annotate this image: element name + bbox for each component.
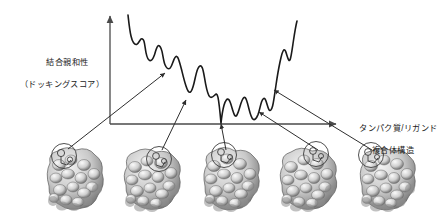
y-axis-label: 結合親和性 （ドッキングスコア） <box>14 46 110 112</box>
pointer-structure-4 <box>259 112 318 150</box>
docking-landscape-figure: 結合親和性 （ドッキングスコア） タンパク質/リガンド 複合体構造 <box>0 0 441 218</box>
x-axis-label-line1: タンパク質/リガンド <box>359 124 437 133</box>
pointer-structure-3 <box>221 124 226 150</box>
y-axis-label-line1: 結合親和性 <box>46 58 88 67</box>
y-axis-label-line2: （ドッキングスコア） <box>14 79 110 90</box>
x-axis-label-line2: 複合体構造 <box>345 145 441 156</box>
x-axis-label: タンパク質/リガンド 複合体構造 <box>345 112 441 178</box>
pointer-structure-2 <box>162 100 186 150</box>
docking-score-curve <box>128 15 297 123</box>
